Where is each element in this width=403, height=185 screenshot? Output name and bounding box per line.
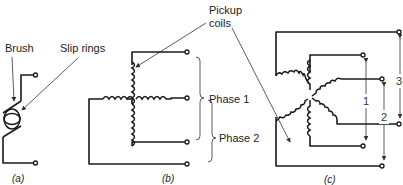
slip-rings-pointer-arrow xyxy=(22,58,78,110)
terminal-c1-top xyxy=(361,53,365,57)
phase-number-3: 3 xyxy=(396,75,402,87)
caption-b: (b) xyxy=(162,173,174,184)
upper-brush xyxy=(3,101,21,113)
phase1-bottom-lead xyxy=(132,142,185,146)
terminal-b1 xyxy=(185,50,189,54)
terminal-c3-bottom xyxy=(397,122,401,126)
terminal-c3-top xyxy=(397,30,401,34)
slip-rings-label: Slip rings xyxy=(60,42,106,54)
coil-upper-left xyxy=(276,70,309,84)
phase2-left-lead xyxy=(89,99,185,164)
coil-lower-right xyxy=(312,98,337,120)
caption-a: (a) xyxy=(12,173,24,184)
slip-ring-outer xyxy=(4,109,20,129)
vertical-coil-lower xyxy=(132,104,135,146)
pickup-coils-label-line2: coils xyxy=(209,17,232,29)
brush-pointer-arrow xyxy=(12,57,14,101)
lower-brush xyxy=(3,126,21,137)
panel-b: Pickup coils Phase 1 Phase 2 (b) xyxy=(89,4,290,184)
brush-label: Brush xyxy=(5,42,34,54)
phase1-bottom-lead-c xyxy=(310,136,361,146)
pickup-coils-pointer-b xyxy=(136,23,206,67)
phase1-brace xyxy=(196,57,204,140)
phase3-top-lead xyxy=(276,32,397,76)
phase1-label: Phase 1 xyxy=(209,93,249,105)
coil-vertical-lower xyxy=(308,100,311,136)
terminal-b3 xyxy=(185,140,189,144)
terminal-c2-bottom xyxy=(380,164,384,168)
phase2-right-lead xyxy=(166,98,185,99)
phase1-top-lead xyxy=(132,52,185,65)
terminal-c1-bottom xyxy=(361,144,365,148)
lower-lead-wire xyxy=(3,137,34,163)
caption-c: (c) xyxy=(324,174,336,185)
pickup-coils-pointer-c xyxy=(232,28,290,142)
coil-upper-right xyxy=(312,78,341,96)
panel-c: 1 2 3 (c) xyxy=(276,30,403,185)
phase-number-1: 1 xyxy=(363,95,369,107)
pickup-coils-label-line1: Pickup xyxy=(209,4,242,16)
terminal-b2 xyxy=(185,96,189,100)
phase1-top-lead-c xyxy=(310,55,361,72)
upper-lead-wire xyxy=(21,75,34,101)
slip-ring-inner xyxy=(4,114,20,125)
lower-terminal xyxy=(34,161,38,165)
panel-a: Brush Slip rings (a) xyxy=(3,42,106,184)
phase-number-2: 2 xyxy=(381,111,387,123)
upper-terminal xyxy=(34,73,38,77)
horizontal-coil-right xyxy=(136,97,166,100)
terminal-b4 xyxy=(185,162,189,166)
generator-windings-diagram: Brush Slip rings (a) Pickup coils xyxy=(0,0,403,185)
phase2-brace xyxy=(208,100,216,162)
phase2-label: Phase 2 xyxy=(219,132,259,144)
coil-lower-left xyxy=(276,99,308,121)
terminal-c2-top xyxy=(380,77,384,81)
